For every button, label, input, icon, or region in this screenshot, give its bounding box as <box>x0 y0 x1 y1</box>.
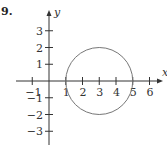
x-tick-label: 6 <box>147 86 154 99</box>
y-tick-label: 2 <box>36 42 43 55</box>
x-tick-label: 3 <box>96 86 103 99</box>
x-ticks: −1123456 <box>25 77 153 99</box>
y-axis-arrow-icon <box>47 10 52 16</box>
y-tick-label: 1 <box>36 58 43 71</box>
graph: 9. x y −1123456 −3−2−1123 <box>0 0 167 146</box>
problem-number: 9. <box>1 5 12 18</box>
x-axis-label: x <box>162 66 167 79</box>
x-tick-label: 4 <box>113 86 120 99</box>
x-axis-arrow-icon <box>157 79 163 84</box>
y-tick-label: −3 <box>27 125 43 138</box>
y-tick-label: −1 <box>27 92 43 105</box>
y-axis-label: y <box>53 6 61 19</box>
x-tick-label: 2 <box>80 86 87 99</box>
y-tick-label: 3 <box>36 25 43 38</box>
y-tick-label: −2 <box>27 109 43 122</box>
